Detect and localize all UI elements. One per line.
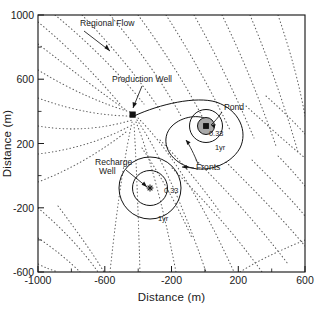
streamline xyxy=(38,98,132,116)
streamline xyxy=(266,96,305,134)
streamline-group xyxy=(38,15,305,272)
streamline xyxy=(278,15,305,116)
streamline xyxy=(196,160,288,264)
x-tick-label: -600 xyxy=(94,274,115,286)
y-tick-label: 600 xyxy=(16,73,34,85)
y-axis-label: Distance (m) xyxy=(1,110,13,178)
regional-flow-label: Regional Flow xyxy=(80,18,135,28)
streamline xyxy=(38,238,80,272)
pond-front-033-label: 0.33 xyxy=(209,129,223,138)
streamline xyxy=(246,106,305,158)
recharge-front-033-label: 0.33 xyxy=(164,186,178,195)
recharge-well-label-line2: Well xyxy=(99,166,116,176)
x-tick-label: -200 xyxy=(161,274,182,286)
x-axis-label: Distance (m) xyxy=(138,291,206,303)
y-tick-label: -200 xyxy=(13,202,34,214)
x-tick-labels: -1000 -600 -200 200 600 xyxy=(25,274,314,286)
production-well-label: Production Well xyxy=(112,74,172,84)
recharge-front-1yr-label: 1yr xyxy=(158,214,169,223)
streamline xyxy=(222,15,276,146)
streamline xyxy=(38,126,130,154)
streamline xyxy=(110,122,132,272)
streamline xyxy=(38,120,132,129)
streamline xyxy=(38,22,120,104)
streamline xyxy=(55,15,144,104)
streamline xyxy=(138,118,234,272)
streamline xyxy=(38,208,98,272)
streamline xyxy=(166,15,230,130)
pond-label: Pond xyxy=(224,102,244,112)
plot-canvas: -1000 -600 -200 200 600 1000 600 200 -20… xyxy=(0,0,318,310)
streamline xyxy=(278,156,305,186)
recharge-well-leader xyxy=(126,170,147,187)
x-tick-label: 600 xyxy=(296,274,314,286)
y-axis-ticks xyxy=(38,15,44,272)
streamline xyxy=(136,122,176,272)
plot-frame xyxy=(38,15,305,272)
y-tick-label: -600 xyxy=(13,266,34,278)
streamline xyxy=(160,140,220,212)
production-well-leader xyxy=(133,86,142,108)
groundwater-contour-figure: -1000 -600 -200 200 600 1000 600 200 -20… xyxy=(0,0,318,310)
y-tick-labels: 1000 600 200 -200 -600 xyxy=(11,9,35,278)
streamline xyxy=(58,206,104,272)
streamline xyxy=(134,124,140,272)
y-tick-label: 200 xyxy=(16,138,34,150)
streamline xyxy=(38,264,58,272)
recharge-well-marker xyxy=(147,185,154,192)
streamline xyxy=(110,15,182,118)
streamline xyxy=(172,168,262,272)
streamline xyxy=(138,15,206,124)
fronts-leader-to-pond xyxy=(186,140,198,164)
streamline xyxy=(252,160,305,216)
y-tick-label: 1000 xyxy=(11,9,35,21)
streamline xyxy=(240,240,305,272)
fronts-label: Fronts xyxy=(196,162,220,172)
production-well-marker xyxy=(130,112,135,117)
regional-flow-arrow xyxy=(84,31,110,51)
streamline xyxy=(250,15,298,152)
x-axis-ticks xyxy=(38,266,305,272)
pond-center-marker xyxy=(204,124,209,129)
x-tick-label: 200 xyxy=(230,274,248,286)
pond-front-1yr-label: 1yr xyxy=(215,143,226,152)
